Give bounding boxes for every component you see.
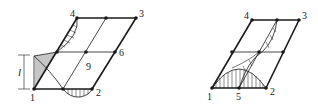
label-node-3: 3 xyxy=(139,8,144,19)
node-6 xyxy=(113,50,117,54)
r-node-2 xyxy=(264,86,268,90)
label-node-2: 2 xyxy=(96,87,101,98)
mid-slanted xyxy=(63,18,106,89)
r-node-5 xyxy=(237,86,241,90)
node-2 xyxy=(90,87,94,91)
label-node-6: 6 xyxy=(119,47,124,58)
edge-2-3 xyxy=(92,18,136,89)
upper-hatching xyxy=(61,25,77,47)
left-diagonal-curve xyxy=(34,56,63,89)
r-node-mid-top xyxy=(275,18,279,22)
label-node-4: 4 xyxy=(70,8,75,19)
node-mid-left xyxy=(55,50,59,54)
node-1 xyxy=(32,87,36,91)
node-mid-top xyxy=(104,16,108,20)
dimension-label: l xyxy=(18,66,21,78)
r-label-node-4: 4 xyxy=(244,10,249,21)
r-node-mid-right xyxy=(281,50,285,54)
r-parabola-hatching xyxy=(216,69,263,88)
r-node-mid-left xyxy=(230,50,234,54)
r-node-1 xyxy=(210,86,214,90)
bottom-mode-curve xyxy=(63,89,92,97)
r-node-4 xyxy=(250,18,254,22)
r-label-node-5: 5 xyxy=(236,91,241,102)
node-9 xyxy=(84,50,88,54)
r-label-node-3: 3 xyxy=(302,10,307,21)
r-node-center xyxy=(257,50,261,54)
r-diagonal-hatching xyxy=(243,28,276,72)
label-node-1: 1 xyxy=(30,92,35,103)
label-node-9: 9 xyxy=(86,61,91,72)
r-label-node-2: 2 xyxy=(270,86,275,97)
diagram-canvas: 1 2 3 4 6 9 l xyxy=(0,0,318,110)
node-mid-bottom xyxy=(61,87,65,91)
r-label-node-1: 1 xyxy=(207,91,212,102)
r-node-3 xyxy=(297,18,301,22)
node-4 xyxy=(75,16,79,20)
node-3 xyxy=(134,16,138,20)
right-figure xyxy=(212,20,299,88)
